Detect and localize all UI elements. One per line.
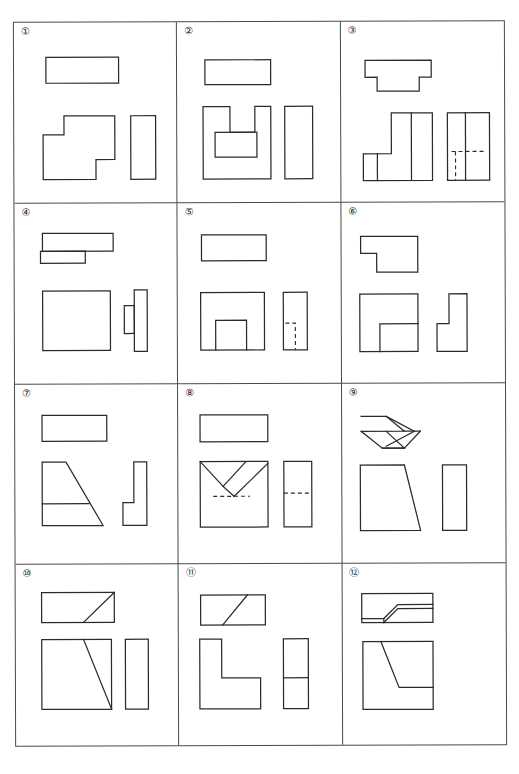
- worksheet-sheet: ① ② ③: [0, 0, 519, 774]
- orthographic-drawing-10: [16, 565, 179, 746]
- orthographic-drawing-9: [342, 383, 506, 563]
- exercise-grid: ① ② ③: [13, 20, 507, 747]
- exercise-cell-4[interactable]: ④: [14, 203, 178, 384]
- orthographic-drawing-11: [179, 564, 342, 745]
- orthographic-drawing-3: [341, 21, 505, 201]
- orthographic-drawing-7: [15, 384, 178, 564]
- exercise-cell-5[interactable]: ⑤: [178, 202, 342, 383]
- page-title: [0, 0, 519, 8]
- exercise-cell-8[interactable]: ⑧: [178, 383, 342, 564]
- orthographic-drawing-4: [14, 203, 177, 383]
- orthographic-drawing-8: [178, 383, 341, 563]
- exercise-cell-11[interactable]: ⑪: [179, 564, 343, 745]
- exercise-cell-6[interactable]: ⑥: [341, 202, 505, 383]
- orthographic-drawing-5: [178, 202, 341, 382]
- exercise-cell-3[interactable]: ③: [341, 21, 505, 202]
- orthographic-drawing-12: [342, 563, 506, 744]
- exercise-cell-1[interactable]: ①: [14, 22, 178, 203]
- exercise-cell-7[interactable]: ⑦: [15, 384, 179, 565]
- exercise-cell-9[interactable]: ⑨: [342, 383, 506, 564]
- exercise-cell-12[interactable]: ⑫: [342, 563, 506, 744]
- orthographic-drawing-1: [14, 22, 177, 202]
- exercise-cell-2[interactable]: ②: [177, 22, 341, 203]
- orthographic-drawing-2: [177, 22, 340, 202]
- exercise-cell-10[interactable]: ⑩: [16, 565, 180, 746]
- orthographic-drawing-6: [341, 202, 505, 382]
